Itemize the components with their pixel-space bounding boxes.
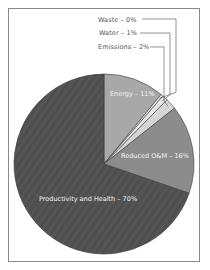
label-productivity-health: Productivity and Health – 70% [39, 195, 137, 203]
label-energy: Energy – 11% [110, 90, 155, 98]
pie-chart [0, 0, 210, 270]
label-water: Water – 1% [99, 29, 137, 37]
label-reduced-om: Reduced O&M – 16% [121, 152, 189, 160]
label-emissions: Emissions – 2% [98, 43, 149, 51]
label-waste: Waste – 0% [98, 16, 137, 24]
pie-slices [14, 74, 194, 254]
